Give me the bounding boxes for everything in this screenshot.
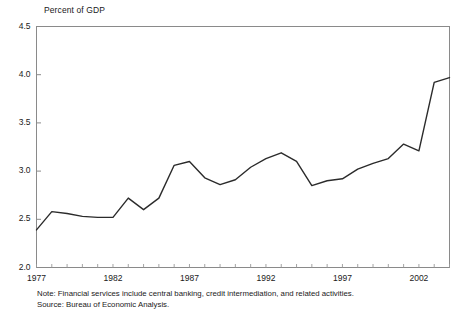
y-tick-label: 3.5	[5, 118, 31, 127]
chart-footnotes: Note: Financial services include central…	[37, 288, 354, 310]
y-tick-label: 4.5	[5, 22, 31, 31]
y-tick-label: 4.0	[5, 70, 31, 79]
plot-frame	[37, 27, 450, 268]
plot-area: 2.02.53.03.54.04.5 197719821987199219972…	[0, 0, 463, 320]
x-tick-label: 1977	[17, 274, 57, 283]
y-tick-label: 3.0	[5, 166, 31, 175]
chart-svg	[0, 0, 463, 320]
x-tick-label: 1987	[169, 274, 209, 283]
x-axis-minor-ticks	[37, 264, 450, 268]
y-tick-label: 2.0	[5, 263, 31, 272]
x-tick-label: 1992	[246, 274, 286, 283]
x-tick-label: 1997	[322, 274, 362, 283]
x-tick-label: 1982	[93, 274, 133, 283]
chart-figure: Percent of GDP 2.02.53.03.54.04.5 197719…	[0, 0, 463, 320]
plot-border	[37, 27, 450, 268]
note-line: Note: Financial services include central…	[37, 288, 354, 299]
x-tick-label: 2002	[399, 274, 439, 283]
y-tick-label: 2.5	[5, 214, 31, 223]
y-axis-ticks	[37, 27, 42, 268]
source-line: Source: Bureau of Economic Analysis.	[37, 299, 354, 310]
data-series-line	[37, 78, 450, 230]
